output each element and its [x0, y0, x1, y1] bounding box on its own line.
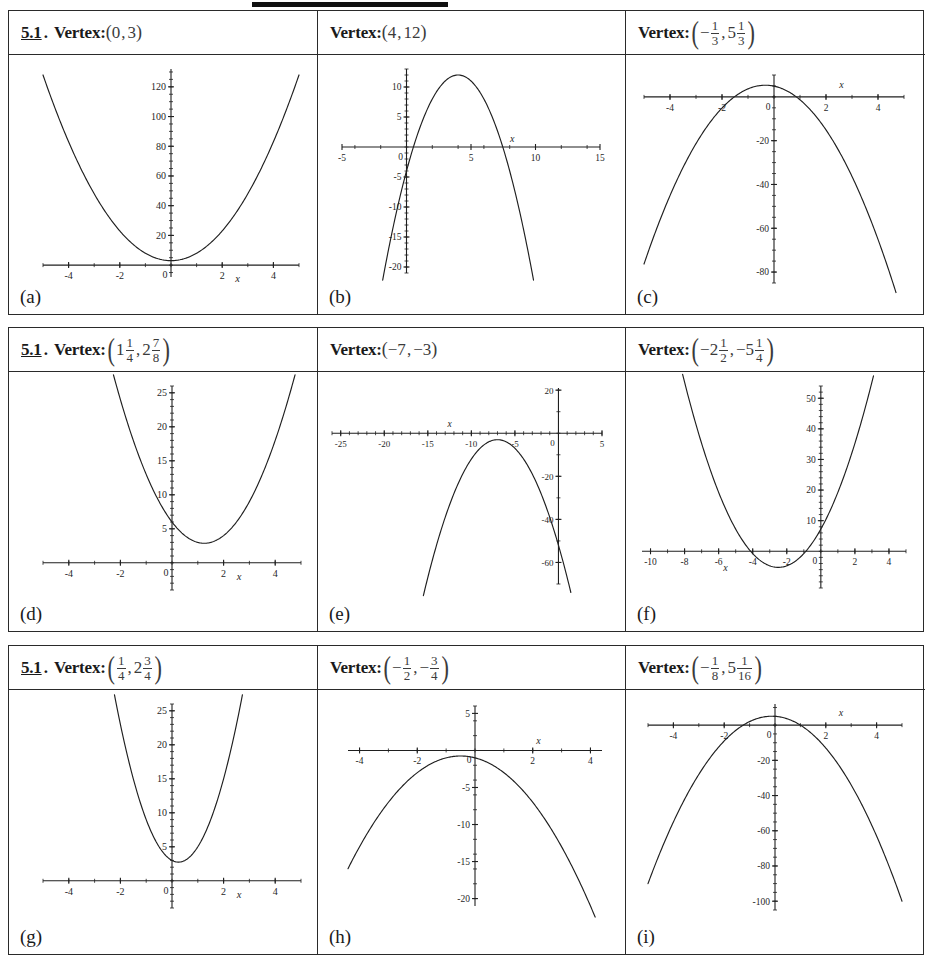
- x-tick-label: -2: [720, 731, 728, 741]
- paren: ): [154, 655, 161, 680]
- x-axis-label: x: [446, 419, 452, 429]
- vertex-label: Vertex:: [638, 23, 690, 43]
- parabola-graph-c: -4-2240-20-40-60-80x: [626, 55, 925, 314]
- parabola-graph-d: -4-2240510152025x: [9, 372, 317, 631]
- number: 12: [404, 23, 421, 43]
- fraction-numerator: 1: [711, 19, 720, 33]
- fraction: 12: [719, 336, 728, 364]
- parabola-curve: [348, 756, 595, 917]
- vertex-value: (−12,−34): [382, 653, 450, 681]
- fraction-denominator: 4: [430, 668, 439, 683]
- fraction: 14: [117, 654, 126, 682]
- parabola-curve: [113, 375, 295, 543]
- worksheet-row: 5.1.Vertex:(14,234) -4-2240510152025x (g…: [8, 645, 924, 955]
- x-tick-label: 4: [887, 557, 892, 567]
- fraction-denominator: 8: [152, 350, 161, 365]
- number: 1: [116, 340, 125, 360]
- y-tick-label: -5: [462, 783, 470, 793]
- section-dot: .: [44, 340, 48, 360]
- x-tick-label: 2: [221, 568, 226, 579]
- x-tick-label: -4: [666, 103, 674, 113]
- x-axis-label: x: [535, 735, 541, 746]
- panel-b-header: Vertex:(4,12): [318, 11, 625, 55]
- y-tick-label: 120: [151, 81, 166, 92]
- panel-i-plot: -4-2240-20-40-60-80-100x: [626, 690, 925, 954]
- x-tick-label: 15: [595, 153, 605, 163]
- fraction: 14: [755, 336, 764, 364]
- y-tick-label: -40: [757, 791, 770, 801]
- vertex-value: (−7,−3): [382, 339, 437, 360]
- y-tick-label: -5: [394, 172, 402, 182]
- y-tick-label: -100: [753, 897, 771, 907]
- panel-h-header: Vertex:(−12,−34): [318, 646, 625, 690]
- comma: ,: [128, 658, 132, 678]
- panel-g-header: 5.1.Vertex:(14,234): [9, 646, 317, 690]
- fraction-denominator: 2: [403, 668, 412, 683]
- panel-d-header: 5.1.Vertex:(114,278): [9, 328, 317, 372]
- panel-e-label: (e): [329, 603, 350, 625]
- y-tick-label: -40: [756, 180, 769, 190]
- section-dot: .: [44, 23, 48, 43]
- y-tick-label: -60: [757, 826, 770, 836]
- vertex-label: Vertex:: [638, 658, 690, 678]
- x-tick-label: 4: [588, 756, 593, 766]
- paren: ): [431, 339, 437, 360]
- vertex-label: Vertex:: [330, 658, 382, 678]
- paren: (: [691, 655, 698, 680]
- x-tick-label: 4: [874, 731, 879, 741]
- x-axis-label: x: [838, 79, 844, 90]
- x-tick-label: -10: [644, 557, 657, 567]
- fraction-numerator: 1: [719, 336, 728, 350]
- y-tick-label: 40: [156, 200, 166, 211]
- sign: −: [419, 658, 429, 678]
- y-tick-label: 5: [465, 709, 470, 719]
- y-tick-label: -60: [756, 224, 769, 234]
- x-tick-label: -6: [715, 557, 723, 567]
- paren: ): [136, 22, 142, 43]
- x-tick-label: -2: [413, 756, 421, 766]
- fraction-denominator: 2: [719, 350, 728, 365]
- origin-label: 0: [163, 269, 168, 280]
- y-tick-label: 30: [806, 455, 816, 465]
- panel-a-plot: -4-224020406080100120x: [9, 55, 317, 314]
- x-tick-label: 10: [531, 153, 541, 163]
- panel-b-plot: -5510150105-5-10-15-20x: [318, 55, 625, 314]
- y-tick-label: 10: [157, 807, 167, 818]
- panel-g-label: (g): [20, 926, 42, 948]
- y-tick-label: 10: [806, 516, 816, 526]
- panel-f-plot: -10-8-6-4-22401020304050x: [626, 372, 925, 631]
- panel-f: Vertex:(−212,−514) -10-8-6-4-22401020304…: [625, 328, 925, 631]
- panel-a-header: 5.1.Vertex:(0,3): [9, 11, 317, 55]
- fraction-denominator: 3: [711, 33, 720, 48]
- origin-label: 0: [164, 885, 169, 896]
- fraction-denominator: 8: [711, 668, 720, 683]
- fraction-numerator: 1: [117, 654, 126, 668]
- fraction-numerator: 1: [740, 654, 749, 668]
- panel-e-header: Vertex:(−7,−3): [318, 328, 625, 372]
- x-tick-label: -8: [681, 557, 689, 567]
- fraction-denominator: 16: [737, 668, 752, 683]
- panel-i: Vertex:(−18,5116) -4-2240-20-40-60-80-10…: [625, 646, 925, 954]
- y-tick-label: 20: [806, 485, 816, 495]
- x-tick-label: 4: [273, 568, 278, 579]
- vertex-value: (−18,5116): [690, 653, 764, 681]
- parabola-graph-f: -10-8-6-4-22401020304050x: [626, 372, 925, 631]
- parabola-curve: [644, 85, 896, 292]
- y-tick-label: -10: [389, 202, 402, 212]
- fraction-numerator: 1: [737, 19, 746, 33]
- fraction-numerator: 1: [755, 336, 764, 350]
- worksheet-grid: 5.1.Vertex:(0,3) -4-224020406080100120x …: [8, 10, 924, 966]
- paren: ): [441, 655, 448, 680]
- comma: ,: [407, 340, 411, 360]
- comma: ,: [730, 340, 734, 360]
- x-tick-label: -20: [378, 439, 390, 449]
- x-tick-label: 4: [273, 886, 278, 897]
- worksheet-row: 5.1.Vertex:(114,278) -4-2240510152025x (…: [8, 327, 924, 632]
- paren: (: [107, 655, 114, 680]
- x-tick-label: 2: [220, 270, 225, 281]
- x-tick-label: 2: [530, 756, 535, 766]
- y-tick-label: -20: [757, 756, 770, 766]
- y-tick-label: -80: [756, 267, 769, 277]
- panel-h: Vertex:(−12,−34) -4-22405-5-10-15-20x (h…: [317, 646, 625, 954]
- x-tick-label: -4: [65, 568, 73, 579]
